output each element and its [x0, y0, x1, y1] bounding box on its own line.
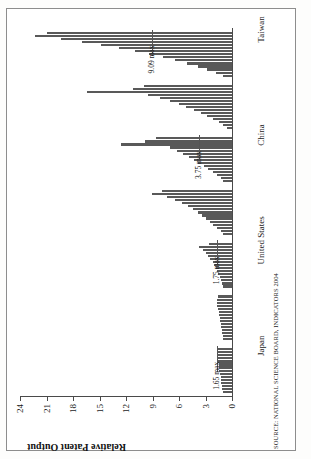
bar [198, 65, 232, 67]
figure: Relative Patent Output Normalized by 198… [0, 0, 311, 459]
bar [82, 41, 232, 43]
bar [213, 118, 232, 120]
bar [220, 276, 232, 278]
category-label: Taiwan [256, 16, 266, 42]
bar [35, 35, 232, 37]
bar [223, 124, 232, 126]
max-annotation-label: 9.09 max [147, 46, 155, 74]
bar [216, 72, 232, 74]
bar [217, 227, 232, 229]
bar [207, 68, 232, 70]
bar [145, 140, 232, 142]
bar [162, 190, 232, 192]
bar [218, 308, 232, 310]
y-axis-tick-label: 15 [95, 404, 104, 413]
bar [222, 332, 232, 334]
bar [170, 146, 232, 148]
bar [218, 348, 232, 350]
bar [182, 202, 232, 204]
bar [194, 109, 232, 111]
bar [222, 388, 232, 390]
bar [222, 385, 232, 387]
y-axis-tick [47, 396, 48, 401]
bar [160, 97, 232, 99]
bar-series [20, 28, 232, 396]
bar [218, 357, 232, 359]
bar [202, 214, 232, 216]
bar [201, 112, 232, 114]
bar [206, 217, 232, 219]
y-axis-tick [20, 396, 21, 401]
y-axis-tick-label: 3 [201, 404, 210, 409]
bar [179, 103, 232, 105]
bar [221, 382, 232, 384]
bar [170, 100, 232, 102]
bar [144, 85, 232, 87]
bar [198, 162, 232, 164]
bar [148, 94, 232, 96]
bar [207, 115, 232, 117]
bar [175, 199, 232, 201]
y-axis-tick-label: 0 [228, 404, 237, 409]
y-axis-tick-label: 6 [175, 404, 184, 409]
rotated-figure-container: Relative Patent Output Normalized by 198… [0, 0, 311, 459]
bar [223, 180, 232, 182]
bar [223, 391, 232, 393]
y-axis-tick-label: 21 [42, 404, 51, 413]
bar [204, 165, 232, 167]
scanned-page: Relative Patent Output Normalized by 198… [0, 0, 311, 459]
bar [193, 208, 232, 210]
bar [221, 279, 232, 281]
y-axis-tick-label: 24 [16, 404, 25, 413]
bar [101, 44, 232, 46]
bar [219, 311, 232, 313]
bar [217, 174, 232, 176]
bar [221, 376, 232, 378]
bar [217, 302, 232, 304]
y-axis-tick [126, 396, 127, 401]
bar [133, 88, 232, 90]
bar [217, 305, 232, 307]
y-axis-tick-label: 18 [69, 404, 78, 413]
bar [223, 285, 232, 287]
bar [223, 335, 232, 337]
max-annotation-label: 1.65 max [213, 362, 221, 390]
y-axis-tick [153, 396, 154, 401]
bar [167, 196, 232, 198]
bar [223, 233, 232, 235]
bar [87, 91, 232, 93]
bar [219, 314, 232, 316]
bar [206, 252, 233, 254]
bar [183, 153, 232, 155]
bar [221, 323, 232, 325]
bar [222, 329, 232, 331]
category-label: United States [256, 216, 266, 264]
y-axis-tick [100, 396, 101, 401]
bar [219, 366, 232, 368]
bar [221, 177, 232, 179]
bar [218, 295, 232, 297]
bar [149, 53, 232, 55]
bar [121, 143, 232, 145]
bar [219, 370, 232, 372]
bar [221, 326, 232, 328]
y-axis-tick [73, 396, 74, 401]
bar [221, 379, 232, 381]
bar [217, 299, 232, 301]
y-axis-title: Relative Patent Output [27, 442, 126, 453]
bar [198, 211, 232, 213]
bar [209, 243, 232, 245]
bar [218, 351, 232, 353]
bar [217, 354, 232, 356]
bar [199, 246, 232, 248]
bar [119, 47, 232, 49]
bar [208, 168, 232, 170]
y-axis-tick [232, 396, 233, 401]
category-label: Japan [256, 336, 266, 357]
bar [220, 317, 232, 319]
bar [186, 106, 232, 108]
bar [222, 282, 232, 284]
bar [220, 373, 232, 375]
bar [223, 338, 232, 340]
y-axis-tick [206, 396, 207, 401]
